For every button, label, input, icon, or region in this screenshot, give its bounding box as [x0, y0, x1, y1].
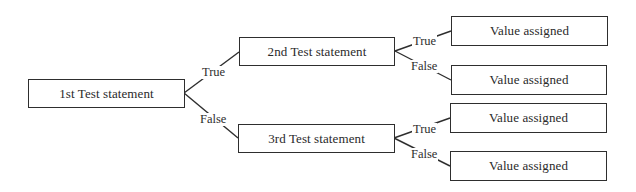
edge-label-test3-false: False [410, 148, 438, 161]
edge-label-test1-true: True [201, 66, 226, 79]
edge-label-test1-false: False [199, 113, 227, 126]
node-test-2: 2nd Test statement [239, 37, 395, 66]
node-test-3: 3rd Test statement [238, 124, 395, 153]
node-test-1: 1st Test statement [28, 79, 185, 108]
node-value-2-label: Value assigned [489, 72, 568, 88]
node-value-1-label: Value assigned [490, 23, 569, 39]
node-value-1: Value assigned [451, 16, 608, 46]
edge-label-test2-false: False [410, 60, 438, 73]
node-test-1-label: 1st Test statement [59, 86, 154, 102]
node-test-3-label: 3rd Test statement [268, 131, 365, 147]
edge-label-test2-true: True [412, 35, 437, 48]
node-value-3-label: Value assigned [489, 110, 568, 126]
edge-label-test3-true: True [412, 123, 437, 136]
node-value-4-label: Value assigned [489, 158, 568, 174]
node-value-4: Value assigned [450, 151, 607, 181]
node-value-3: Value assigned [450, 103, 607, 133]
node-test-2-label: 2nd Test statement [268, 44, 367, 60]
node-value-2: Value assigned [451, 65, 607, 95]
